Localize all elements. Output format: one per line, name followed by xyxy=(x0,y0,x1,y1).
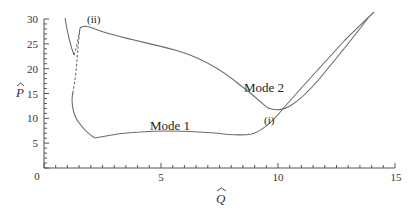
point-ii-label: (ii) xyxy=(87,13,101,26)
chart: 30 25 20 15 10 5 0 5 10 15 P Q Mode 1 Mo… xyxy=(0,0,411,213)
x-tick-label-15: 15 xyxy=(391,171,403,183)
point-i-label: (i) xyxy=(264,114,275,127)
y-ticks xyxy=(44,19,49,168)
x-ticks xyxy=(44,163,395,168)
x-tick-label-5: 5 xyxy=(158,171,164,183)
mode1-upper-left-curve xyxy=(65,18,74,55)
y-tick-label-15: 15 xyxy=(27,88,39,100)
mode1-curve xyxy=(72,12,374,138)
y-tick-label-10: 10 xyxy=(27,112,39,124)
mode2-curve xyxy=(80,18,368,110)
mode2-label: Mode 2 xyxy=(244,80,284,95)
x-axis-label: Q xyxy=(216,188,226,206)
x-tick-label-10: 10 xyxy=(273,171,285,183)
y-tick-label-30: 30 xyxy=(27,13,39,25)
unstable-dashed-curve xyxy=(73,28,80,92)
y-tick-label-5: 5 xyxy=(33,137,39,149)
x-axis-label-text: Q xyxy=(216,191,226,206)
y-tick-label-20: 20 xyxy=(27,63,39,75)
axes xyxy=(44,19,395,168)
y-tick-label-25: 25 xyxy=(27,38,39,50)
mode1-label: Mode 1 xyxy=(150,118,190,133)
x-tick-label-0: 0 xyxy=(34,170,40,182)
y-axis-label-text: P xyxy=(15,85,24,100)
y-axis-label: P xyxy=(15,83,24,100)
